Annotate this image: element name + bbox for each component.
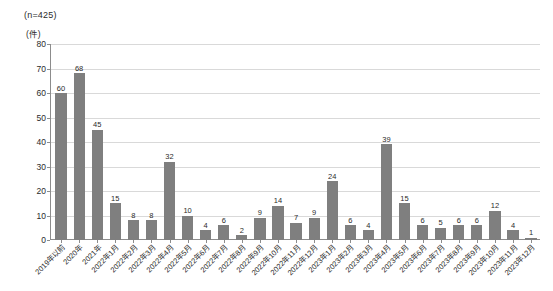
bar-value-label: 39 — [382, 136, 390, 144]
y-axis-tick-label: 60 — [37, 88, 46, 98]
y-axis-tick-label: 10 — [37, 211, 46, 221]
bar-value-label: 60 — [57, 85, 65, 93]
bar-value-label: 1 — [529, 229, 533, 237]
x-label-slot: 2020年 — [70, 242, 88, 291]
y-axis-unit-label: (件) — [26, 27, 41, 39]
bar-value-label: 4 — [366, 222, 370, 230]
bar-slot: 7 — [287, 44, 305, 240]
bar[interactable]: 4 — [200, 230, 211, 240]
bar[interactable]: 4 — [507, 230, 518, 240]
x-label-slot: 2023年12月 — [522, 242, 540, 291]
bar-value-label: 6 — [457, 217, 461, 225]
bar[interactable]: 8 — [128, 220, 139, 240]
bar-slot: 60 — [52, 44, 70, 240]
bar-value-label: 9 — [258, 209, 262, 217]
bar-value-label: 12 — [491, 202, 499, 210]
y-axis-tick-mark — [47, 240, 50, 241]
bar-slot: 68 — [70, 44, 88, 240]
bar[interactable]: 6 — [453, 225, 464, 240]
bar-slot: 15 — [395, 44, 413, 240]
bar[interactable]: 15 — [110, 203, 121, 240]
bar[interactable]: 10 — [182, 216, 193, 241]
bar[interactable]: 32 — [164, 162, 175, 240]
bar-value-label: 7 — [294, 214, 298, 222]
bar-value-label: 32 — [165, 153, 173, 161]
bar-slot: 9 — [305, 44, 323, 240]
bar-value-label: 6 — [475, 217, 479, 225]
bar-slot: 6 — [468, 44, 486, 240]
bar-slot: 2 — [233, 44, 251, 240]
bar-slot: 6 — [450, 44, 468, 240]
plot-area: 01020304050607080 6068451588321046291479… — [50, 44, 540, 240]
bar[interactable]: 60 — [55, 93, 66, 240]
bars-container: 60684515883210462914792464391565661241 — [50, 44, 540, 240]
bar-value-label: 45 — [93, 121, 101, 129]
bar-value-label: 15 — [111, 195, 119, 203]
bar[interactable]: 6 — [417, 225, 428, 240]
bar-slot: 10 — [179, 44, 197, 240]
bar-slot: 32 — [160, 44, 178, 240]
bar-slot: 9 — [251, 44, 269, 240]
bar[interactable]: 45 — [92, 130, 103, 240]
grid-line — [50, 240, 540, 241]
bar-slot: 4 — [359, 44, 377, 240]
bar-slot: 4 — [197, 44, 215, 240]
y-axis-tick-label: 20 — [37, 186, 46, 196]
bar[interactable]: 6 — [471, 225, 482, 240]
bar[interactable]: 9 — [254, 218, 265, 240]
bar-value-label: 4 — [204, 222, 208, 230]
y-axis-tick-label: 50 — [37, 113, 46, 123]
bar-chart: (n=425) (件) 01020304050607080 6068451588… — [0, 0, 553, 291]
y-axis-tick-label: 70 — [37, 64, 46, 74]
bar[interactable]: 24 — [327, 181, 338, 240]
bar-slot: 6 — [414, 44, 432, 240]
bar[interactable]: 9 — [309, 218, 320, 240]
bar-value-label: 9 — [312, 209, 316, 217]
bar[interactable]: 6 — [345, 225, 356, 240]
bar-slot: 24 — [323, 44, 341, 240]
bar-slot: 15 — [106, 44, 124, 240]
y-axis-tick-label: 80 — [37, 39, 46, 49]
bar-value-label: 15 — [400, 195, 408, 203]
bar-slot: 12 — [486, 44, 504, 240]
bar-slot: 8 — [124, 44, 142, 240]
bar-slot: 4 — [504, 44, 522, 240]
bar-slot: 45 — [88, 44, 106, 240]
bar-slot: 8 — [142, 44, 160, 240]
bar[interactable]: 39 — [381, 144, 392, 240]
bar[interactable]: 14 — [272, 206, 283, 240]
bar-value-label: 6 — [421, 217, 425, 225]
bar-slot: 5 — [432, 44, 450, 240]
y-axis-tick-label: 30 — [37, 162, 46, 172]
bar[interactable]: 12 — [489, 211, 500, 240]
bar-slot: 1 — [522, 44, 540, 240]
bar[interactable]: 5 — [435, 228, 446, 240]
bar[interactable]: 15 — [399, 203, 410, 240]
bar-value-label: 10 — [183, 207, 191, 215]
x-axis-labels: 2019年以前2020年2021年2022年1月2022年2月2022年3月20… — [50, 242, 540, 291]
y-axis-tick-label: 40 — [37, 137, 46, 147]
bar-value-label: 14 — [274, 197, 282, 205]
bar-value-label: 8 — [149, 212, 153, 220]
bar-value-label: 5 — [439, 219, 443, 227]
y-axis-tick-label: 0 — [41, 235, 46, 245]
bar[interactable]: 4 — [363, 230, 374, 240]
bar-slot: 6 — [341, 44, 359, 240]
bar-value-label: 8 — [131, 212, 135, 220]
bar-value-label: 68 — [75, 65, 83, 73]
bar-value-label: 2 — [240, 227, 244, 235]
bar[interactable]: 68 — [74, 73, 85, 240]
bar-slot: 39 — [377, 44, 395, 240]
bar-slot: 14 — [269, 44, 287, 240]
bar-value-label: 4 — [511, 222, 515, 230]
sample-size-label: (n=425) — [24, 10, 57, 20]
bar[interactable]: 7 — [290, 223, 301, 240]
bar-value-label: 6 — [348, 217, 352, 225]
bar-value-label: 6 — [222, 217, 226, 225]
bar[interactable]: 6 — [218, 225, 229, 240]
bar[interactable]: 8 — [146, 220, 157, 240]
bar-value-label: 24 — [328, 173, 336, 181]
bar-slot: 6 — [215, 44, 233, 240]
